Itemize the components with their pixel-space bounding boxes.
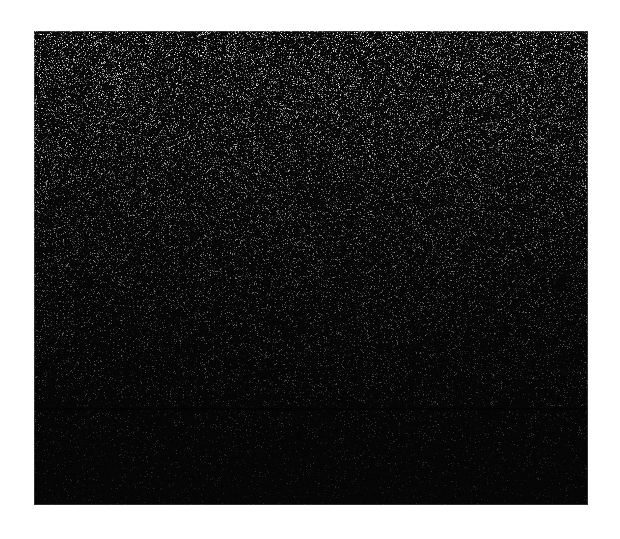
speckle-texture-panel — [34, 31, 588, 505]
speckle-noise-surface — [34, 31, 588, 505]
image-canvas: Dark speckled texture panel — [0, 0, 620, 539]
